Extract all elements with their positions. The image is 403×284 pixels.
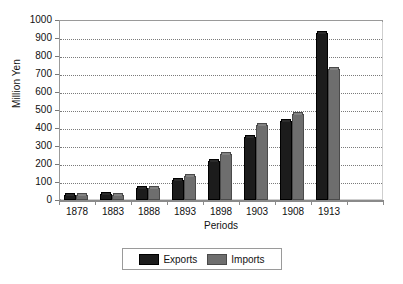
y-tick-label: 400 <box>6 123 52 133</box>
x-tick-mark <box>275 200 276 205</box>
bar-imports-1908 <box>292 114 304 200</box>
y-tick-label: 200 <box>6 159 52 169</box>
x-tick-mark <box>131 200 132 205</box>
y-tick-label: 0 <box>6 195 52 205</box>
bar-top-cap <box>209 159 219 162</box>
bar-imports-1903 <box>256 125 268 200</box>
bar-imports-1898 <box>220 154 232 200</box>
y-tick-label: 600 <box>6 87 52 97</box>
bar-group <box>239 20 275 200</box>
x-axis-line <box>59 200 383 202</box>
y-tick-label: 100 <box>6 177 52 187</box>
y-tick-label: 300 <box>6 141 52 151</box>
y-tick-label: 700 <box>6 69 52 79</box>
bar-top-cap <box>77 193 87 196</box>
y-tick-label: 500 <box>6 105 52 115</box>
bar-top-cap <box>281 119 291 122</box>
bar-chart: Million Yen 0100200300400500600700800900… <box>0 0 403 284</box>
bar-exports-1888 <box>136 188 148 200</box>
bar-group <box>95 20 131 200</box>
bar-top-cap <box>173 178 183 181</box>
x-tick-mark <box>59 200 60 205</box>
bar-group <box>59 20 95 200</box>
legend-item-exports: Exports <box>139 254 197 265</box>
bar-imports-1893 <box>184 176 196 200</box>
bar-imports-1913 <box>328 69 340 200</box>
bar-group <box>311 20 347 200</box>
x-axis-title: Periods <box>59 220 383 231</box>
bar-top-cap <box>329 67 339 70</box>
bar-top-cap <box>317 31 327 34</box>
x-tick-label: 1913 <box>307 206 351 218</box>
legend-item-imports: Imports <box>207 254 264 265</box>
x-tick-mark <box>347 200 348 205</box>
bar-top-cap <box>257 123 267 126</box>
legend-label-exports: Exports <box>163 254 197 265</box>
bar-top-cap <box>245 135 255 138</box>
bar-top-cap <box>221 152 231 155</box>
x-tick-mark <box>203 200 204 205</box>
bar-exports-1913 <box>316 33 328 200</box>
bar-top-cap <box>185 174 195 177</box>
legend-label-imports: Imports <box>231 254 264 265</box>
bar-group <box>203 20 239 200</box>
legend-swatch-imports <box>207 254 227 265</box>
x-tick-mark <box>167 200 168 205</box>
legend-swatch-exports <box>139 254 159 265</box>
bar-exports-1893 <box>172 180 184 200</box>
bar-group <box>275 20 311 200</box>
bar-exports-1908 <box>280 121 292 200</box>
bar-exports-1898 <box>208 161 220 200</box>
chart-legend: Exports Imports <box>122 248 282 270</box>
x-tick-mark <box>239 200 240 205</box>
bar-top-cap <box>101 192 111 195</box>
bar-imports-1888 <box>148 188 160 200</box>
y-tick-label: 1000 <box>6 15 52 25</box>
bars-layer <box>59 20 383 200</box>
bar-top-cap <box>65 193 75 196</box>
bar-top-cap <box>293 112 303 115</box>
bar-group <box>131 20 167 200</box>
bar-top-cap <box>137 186 147 189</box>
bar-top-cap <box>149 186 159 189</box>
x-tick-mark <box>311 200 312 205</box>
bar-group <box>167 20 203 200</box>
x-tick-mark <box>383 200 384 205</box>
bar-exports-1903 <box>244 137 256 200</box>
y-tick-label: 900 <box>6 33 52 43</box>
y-tick-label: 800 <box>6 51 52 61</box>
x-tick-mark <box>95 200 96 205</box>
bar-top-cap <box>113 193 123 196</box>
